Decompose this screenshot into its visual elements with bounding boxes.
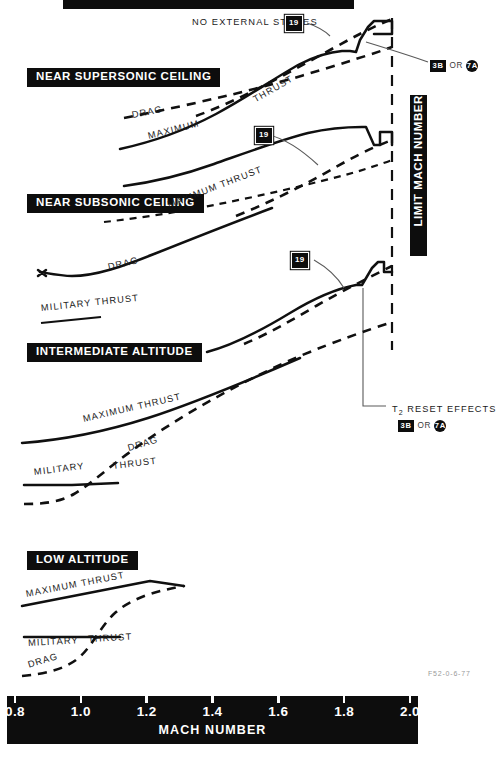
axis-tick-0.8: [14, 696, 17, 703]
figure-code: F52-0-6-77: [428, 670, 471, 677]
alt-config-or-word-p3: OR: [417, 421, 431, 430]
alt-config-group-p3: 3B OR 7A: [398, 420, 446, 432]
alt-config-square-3b: 3B: [430, 60, 446, 72]
axis-tick-1.8: [343, 696, 346, 703]
rule-military-thrust-p2: [41, 317, 101, 323]
panel-title-intermediate-altitude: INTERMEDIATE ALTITUDE: [27, 343, 202, 362]
curve-p2-max-thrust-19: [236, 140, 392, 216]
t2-reset-rest: RESET EFFECTS: [404, 404, 497, 414]
curve-p3-max-thrust-19: [244, 266, 392, 344]
curve-p3-military-thrust: [24, 483, 118, 485]
limit-mach-number-text: LIMIT MACH NUMBER: [410, 95, 427, 227]
axis-tick-label-2.0: 2.0: [400, 704, 420, 719]
curve-p3-max-thrust-solid: [207, 262, 392, 352]
axis-tick-label-1.0: 1.0: [71, 704, 91, 719]
panel-title-near-supersonic-ceiling: NEAR SUPERSONIC CEILING: [27, 68, 220, 87]
callout-badge-19-p3: 19: [292, 253, 308, 268]
curve-p2-military-thrust: [40, 208, 272, 276]
alt-config-group-p1: 3B OR 7A: [430, 60, 478, 72]
callout-badge-19-p1: 19: [286, 16, 302, 31]
alt-config-circle-7a: 7A: [466, 60, 478, 72]
axis-tick-label-1.6: 1.6: [268, 704, 288, 719]
figure-root: NEAR SUPERSONIC CEILING NEAR SUBSONIC CE…: [0, 0, 504, 762]
axis-tick-label-0.8: 0.8: [5, 704, 25, 719]
axis-tick-label-1.2: 1.2: [137, 704, 157, 719]
leader-p3-t2-reset: [363, 288, 386, 406]
t2-reset-t: T: [392, 404, 399, 414]
leader-p3-callout-19: [314, 260, 344, 288]
axis-tick-1.6: [277, 696, 280, 703]
axis-tick-label-1.8: 1.8: [334, 704, 354, 719]
alt-config-or-word: OR: [449, 61, 463, 70]
axis-tick-2.0: [409, 696, 412, 703]
mach-number-axis: 0.81.01.21.41.61.82.0 MACH NUMBER: [7, 696, 418, 744]
callout-badge-19-p2: 19: [256, 128, 272, 143]
alt-config-square-3b-p3: 3B: [398, 420, 414, 432]
axis-tick-label-1.4: 1.4: [203, 704, 223, 719]
label-t2-reset-effects: T2 RESET EFFECTS: [392, 404, 497, 416]
leader-p2-callout-19: [269, 135, 318, 165]
alt-config-circle-7a-p3: 7A: [434, 420, 446, 432]
axis-tick-1.0: [80, 696, 83, 703]
mach-axis-title: MACH NUMBER: [7, 723, 418, 737]
limit-mach-number-label: LIMIT MACH NUMBER: [410, 95, 427, 256]
axis-tick-1.4: [211, 696, 214, 703]
axis-tick-1.2: [145, 696, 148, 703]
curves-layer: [0, 0, 504, 762]
panel-title-low-altitude: LOW ALTITUDE: [27, 551, 138, 570]
